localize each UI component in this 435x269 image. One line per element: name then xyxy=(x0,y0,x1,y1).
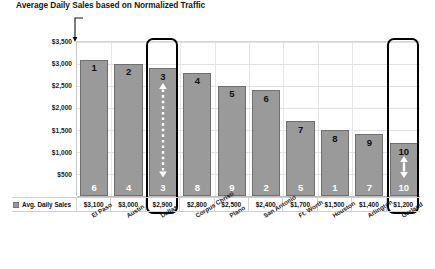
bar-slot[interactable]: 61 xyxy=(77,42,111,196)
y-tick-3000: $3,000 xyxy=(14,60,72,67)
double-arrow-annotation xyxy=(158,83,167,177)
bar-rank-inside: 3 xyxy=(150,182,176,193)
bar-slot[interactable]: 42 xyxy=(111,42,145,196)
bar-rank-top: 1 xyxy=(77,62,111,73)
plot-area: 6142338495265718791010 xyxy=(76,41,420,196)
legend-label: Avg. Daily Sales xyxy=(22,201,71,208)
bar-slot[interactable]: 18 xyxy=(318,42,352,196)
bar-rank-top: 10 xyxy=(387,146,421,157)
bar-rank-top: 4 xyxy=(180,75,214,86)
bar-rank-inside: 6 xyxy=(81,182,107,193)
y-tick-1000: $1,000 xyxy=(14,148,72,155)
bar[interactable]: 2 xyxy=(252,90,280,196)
x-axis-category-labels: El PasoAustinDallasCorpus ChristiPlanoSa… xyxy=(76,213,420,269)
bar-rank-inside: 4 xyxy=(115,182,141,193)
bar-rank-top: 2 xyxy=(111,66,145,77)
bar-series: 6142338495265718791010 xyxy=(77,42,420,196)
leader-line-icon xyxy=(72,16,84,44)
bar[interactable]: 9 xyxy=(218,86,246,196)
bar-rank-inside: 5 xyxy=(287,182,313,193)
double-arrow-annotation xyxy=(399,156,408,178)
bar-rank-inside: 8 xyxy=(184,182,210,193)
bar-rank-top: 7 xyxy=(283,124,317,135)
bar[interactable]: 8 xyxy=(183,73,211,196)
bar-rank-top: 8 xyxy=(318,133,352,144)
bar-rank-inside: 2 xyxy=(253,182,279,193)
bar[interactable]: 6 xyxy=(80,60,108,196)
y-tick-500: $500 xyxy=(14,170,72,177)
bar[interactable]: 3 xyxy=(149,68,177,196)
bar-slot[interactable]: 57 xyxy=(283,42,317,196)
bar-slot[interactable]: 84 xyxy=(180,42,214,196)
avg-daily-sales-swatch xyxy=(13,202,19,208)
y-tick-1500: $1,500 xyxy=(14,126,72,133)
sales-bar-chart: Average Daily Sales based on Normalized … xyxy=(0,0,435,269)
bar-rank-top: 9 xyxy=(352,137,386,148)
bar-rank-inside: 7 xyxy=(356,182,382,193)
y-tick-2500: $2,500 xyxy=(14,82,72,89)
bar-rank-top: 6 xyxy=(249,93,283,104)
bar-slot[interactable]: 33 xyxy=(146,42,180,196)
y-axis: $3,500 $3,000 $2,500 $2,000 $1,500 $1,00… xyxy=(12,41,72,196)
legend-entry-avg-daily-sales: Avg. Daily Sales xyxy=(12,197,76,212)
bar-slot[interactable]: 95 xyxy=(215,42,249,196)
bar-slot[interactable]: 26 xyxy=(249,42,283,196)
bar-slot[interactable]: 79 xyxy=(352,42,386,196)
y-tick-2000: $2,000 xyxy=(14,104,72,111)
page-title: Average Daily Sales based on Normalized … xyxy=(16,0,205,10)
bar[interactable]: 4 xyxy=(114,64,142,196)
y-tick-3500: $3,500 xyxy=(14,38,72,45)
bar-slot[interactable]: 1010 xyxy=(387,42,421,196)
bar-rank-top: 5 xyxy=(215,88,249,99)
bar-rank-top: 3 xyxy=(146,71,180,82)
bar-rank-inside: 10 xyxy=(391,182,417,193)
bar-rank-inside: 1 xyxy=(322,182,348,193)
